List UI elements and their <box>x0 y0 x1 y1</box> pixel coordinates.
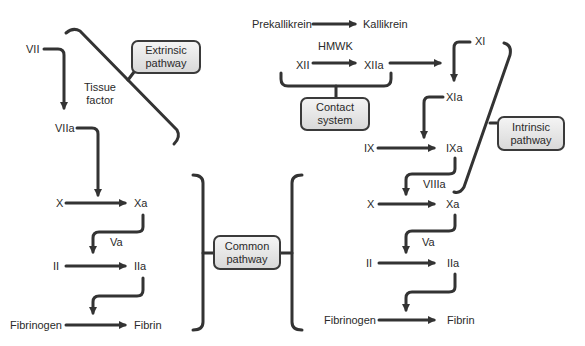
coagulation-diagram <box>0 0 585 346</box>
label-fibrin-right: Fibrin <box>447 314 475 327</box>
label-viia: VIIa <box>55 122 75 135</box>
label-xia: XIa <box>446 91 463 104</box>
extrinsic-pathway-box: Extrinsic pathway <box>131 40 201 74</box>
label-iia-left: IIa <box>134 260 146 273</box>
label-vii: VII <box>26 43 39 56</box>
label-va-left: Va <box>110 236 123 249</box>
label-fibrinogen-left: Fibrinogen <box>10 319 62 332</box>
label-kallikrein: Kallikrein <box>363 18 408 31</box>
label-ii-right: II <box>366 257 372 270</box>
arrow-xia-to-ixa <box>424 97 443 137</box>
label-iia-right: IIa <box>447 257 459 270</box>
label-xa-right: Xa <box>446 198 459 211</box>
label-ii-left: II <box>53 260 59 273</box>
label-fibrinogen-right: Fibrinogen <box>324 314 376 327</box>
common-bracket-right <box>292 175 302 330</box>
label-hmwk: HMWK <box>318 40 353 53</box>
arrow-viia-to-xa <box>77 128 98 195</box>
label-ix: IX <box>364 142 374 155</box>
extrinsic-connector <box>128 72 134 80</box>
label-fibrin-left: Fibrin <box>134 319 162 332</box>
label-xii: XII <box>296 59 309 72</box>
common-bracket-left <box>193 175 203 330</box>
arrow-iia-to-fibrin-left <box>93 278 143 313</box>
label-va-right: Va <box>422 236 435 249</box>
label-xi: XI <box>475 35 485 48</box>
arrow-xi-to-xia <box>454 42 470 80</box>
label-viiia: VIIIa <box>423 178 446 191</box>
label-x-right: X <box>367 198 374 211</box>
intrinsic-pathway-box: Intrinsic pathway <box>497 116 565 151</box>
arrow-iia-to-fibrin-right <box>406 274 455 310</box>
label-xiia: XIIa <box>364 59 384 72</box>
contact-bracket <box>281 73 391 86</box>
label-xa-left: Xa <box>134 197 147 210</box>
label-ixa: IXa <box>446 142 463 155</box>
common-pathway-box: Common pathway <box>213 235 281 270</box>
label-x-left: X <box>56 197 63 210</box>
arrow-vii-to-viia <box>44 49 64 108</box>
contact-system-box: Contact system <box>300 97 370 131</box>
label-tissue-factor: Tissue factor <box>84 81 116 107</box>
label-prekallikrein: Prekallikrein <box>252 18 312 31</box>
